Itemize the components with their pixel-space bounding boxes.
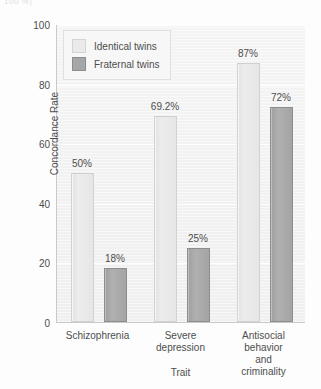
x-axis-category-label: Antisocial behavior and criminality bbox=[235, 330, 293, 378]
top-text-fragment: 100 %) bbox=[4, 0, 32, 6]
bar-value-label: 72% bbox=[271, 92, 291, 103]
legend-label: Identical twins bbox=[94, 41, 157, 52]
bar-value-label: 50% bbox=[72, 158, 92, 169]
chart-legend: Identical twins Fraternal twins bbox=[63, 30, 171, 80]
bar bbox=[270, 107, 293, 322]
bar bbox=[154, 116, 177, 322]
chart-figure: 100 %) 50%18%69.2%25%87%72% 020406080100… bbox=[0, 0, 321, 389]
legend-item-fraternal-twins: Fraternal twins bbox=[72, 55, 160, 73]
bar-value-label: 87% bbox=[238, 48, 258, 59]
x-axis-category-label: Severe depression bbox=[156, 330, 205, 354]
legend-item-identical-twins: Identical twins bbox=[72, 37, 160, 55]
y-axis-tick-label: 80 bbox=[0, 79, 50, 90]
y-axis-title: Concordance Rate bbox=[49, 64, 60, 204]
y-axis-tick-label: 0 bbox=[0, 318, 50, 329]
gridline bbox=[57, 204, 305, 205]
gridline bbox=[57, 25, 305, 26]
x-axis-category-label: Schizophrenia bbox=[66, 330, 129, 342]
y-axis-tick-label: 60 bbox=[0, 139, 50, 150]
bar bbox=[71, 173, 94, 322]
y-axis-tick-label: 40 bbox=[0, 198, 50, 209]
bar bbox=[104, 268, 127, 322]
bar bbox=[237, 63, 260, 322]
y-axis-tick-label: 20 bbox=[0, 258, 50, 269]
gridline bbox=[57, 85, 305, 86]
y-axis-tick-label: 100 bbox=[0, 20, 50, 31]
bar-value-label: 18% bbox=[105, 253, 125, 264]
legend-swatch-icon bbox=[72, 57, 86, 71]
legend-label: Fraternal twins bbox=[94, 59, 160, 70]
bar-value-label: 69.2% bbox=[151, 101, 179, 112]
gridline bbox=[57, 144, 305, 145]
bar bbox=[187, 248, 210, 323]
gridline bbox=[57, 263, 305, 264]
legend-swatch-icon bbox=[72, 39, 86, 53]
bar-value-label: 25% bbox=[188, 233, 208, 244]
